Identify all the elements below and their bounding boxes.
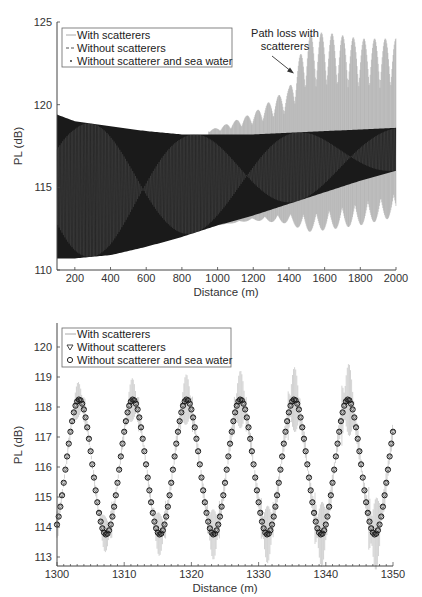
y-tick-label: 110 bbox=[34, 264, 52, 276]
top-plot: 200400600800100012001400160018002000 110… bbox=[12, 16, 408, 298]
top-legend-item-2: Without scatterers bbox=[77, 42, 166, 54]
x-tick-label: 1320 bbox=[179, 568, 203, 580]
y-tick-label: 116 bbox=[34, 461, 52, 473]
top-legend: With scatterers Without scatterers Witho… bbox=[62, 28, 233, 67]
figure: 200400600800100012001400160018002000 110… bbox=[0, 0, 422, 597]
annotation-line-1: Path loss with bbox=[251, 27, 319, 39]
bottom-plot: 130013101320133013401350 113114115116117… bbox=[12, 323, 405, 594]
y-tick-label: 113 bbox=[34, 551, 52, 563]
x-tick-label: 1600 bbox=[312, 272, 336, 284]
x-tick-label: 1340 bbox=[314, 568, 338, 580]
x-tick-label: 1330 bbox=[246, 568, 270, 580]
x-tick-label: 600 bbox=[137, 272, 155, 284]
x-tick-label: 2000 bbox=[384, 272, 408, 284]
y-tick-label: 118 bbox=[34, 401, 52, 413]
bottom-plot-data bbox=[54, 364, 395, 569]
y-tick-label: 117 bbox=[34, 431, 52, 443]
annotation-line-2: scatterers bbox=[261, 40, 310, 52]
y-tick-label: 119 bbox=[34, 371, 52, 383]
x-tick-label: 1200 bbox=[241, 272, 265, 284]
y-tick-label: 125 bbox=[34, 16, 52, 28]
bottom-legend-item-3: Without scatterer and sea water bbox=[77, 354, 233, 366]
bottom-y-axis-label: PL (dB) bbox=[12, 426, 24, 465]
x-tick-label: 400 bbox=[101, 272, 119, 284]
x-tick-label: 200 bbox=[66, 272, 84, 284]
x-tick-label: 1800 bbox=[348, 272, 372, 284]
top-x-axis-label: Distance (m) bbox=[193, 286, 258, 298]
bottom-x-ticks: 130013101320133013401350 bbox=[45, 562, 405, 580]
y-tick-label: 115 bbox=[34, 491, 52, 503]
y-tick-label: 114 bbox=[34, 521, 52, 533]
bottom-legend-item-2: Without scatterers bbox=[77, 341, 166, 353]
x-tick-label: 1400 bbox=[277, 272, 301, 284]
top-legend-item-1: With scatterers bbox=[77, 29, 151, 41]
x-tick-label: 1310 bbox=[112, 568, 136, 580]
x-tick-label: 1000 bbox=[205, 272, 229, 284]
x-tick-label: 800 bbox=[173, 272, 191, 284]
top-y-ticks: 110115120125 bbox=[34, 16, 60, 276]
x-tick-label: 1300 bbox=[45, 568, 69, 580]
legend-dot-icon bbox=[70, 60, 72, 62]
y-tick-label: 115 bbox=[34, 181, 52, 193]
bottom-legend-item-1: With scatterers bbox=[77, 328, 151, 340]
top-legend-item-3: Without scatterer and sea water bbox=[77, 55, 233, 67]
bottom-x-axis-label: Distance (m) bbox=[192, 582, 257, 594]
bottom-y-ticks: 113114115116117118119120 bbox=[34, 341, 60, 563]
top-y-axis-label: PL (dB) bbox=[12, 127, 24, 166]
x-tick-label: 1350 bbox=[381, 568, 405, 580]
y-tick-label: 120 bbox=[34, 99, 52, 111]
bottom-legend: With scatterers Without scatterers Witho… bbox=[62, 328, 233, 367]
y-tick-label: 120 bbox=[34, 341, 52, 353]
